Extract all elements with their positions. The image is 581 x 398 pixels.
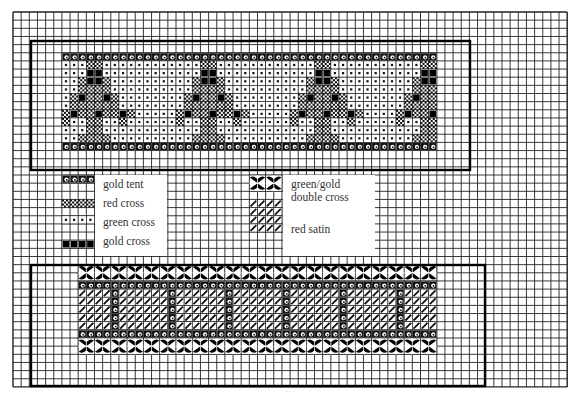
stitch-G <box>266 134 274 142</box>
stitch-G <box>152 94 160 102</box>
stitch-T <box>176 142 184 150</box>
stitch-T <box>160 281 168 289</box>
stitch-T <box>372 330 380 338</box>
stitch-G <box>160 110 168 118</box>
stitch-G <box>396 77 404 85</box>
stitch-T <box>396 330 404 338</box>
stitch-G <box>331 61 339 69</box>
stitch-G <box>380 77 388 85</box>
stitch-R <box>347 118 355 126</box>
stitch-R <box>95 85 103 93</box>
stitch-R <box>306 102 314 110</box>
stitch-G <box>168 77 176 85</box>
stitch-G <box>412 61 420 69</box>
legend-label-s: red satin <box>291 223 330 236</box>
stitch-T <box>70 175 78 183</box>
stitch-G <box>152 134 160 142</box>
stitch-Y <box>323 110 331 118</box>
stitch-T <box>241 142 249 150</box>
stitch-G <box>160 102 168 110</box>
stitch-T <box>249 281 257 289</box>
legend-label-g: green cross <box>103 216 155 229</box>
stitch-T <box>241 53 249 61</box>
stitch-S <box>135 305 143 313</box>
stitch-G <box>143 94 151 102</box>
stitch-T <box>86 142 94 150</box>
stitch-G <box>135 110 143 118</box>
stitch-G <box>339 77 347 85</box>
stitch-Y <box>209 69 217 77</box>
stitch-G <box>119 61 127 69</box>
stitch-S <box>412 322 420 330</box>
stitch-T <box>168 289 176 297</box>
stitch-S <box>363 314 371 322</box>
stitch-S <box>290 297 298 305</box>
stitch-G <box>127 134 135 142</box>
stitch-T <box>135 142 143 150</box>
stitch-G <box>78 126 86 134</box>
stitch-S <box>331 322 339 330</box>
stitch-Y <box>233 110 241 118</box>
stitch-T <box>396 289 404 297</box>
stitch-S <box>323 305 331 313</box>
stitch-G <box>143 110 151 118</box>
stitch-G <box>192 126 200 134</box>
stitch-R <box>315 85 323 93</box>
stitch-G <box>306 126 314 134</box>
stitch-S <box>274 224 282 232</box>
stitch-G <box>70 69 78 77</box>
stitch-T <box>127 330 135 338</box>
stitch-T <box>249 330 257 338</box>
stitch-Y <box>95 69 103 77</box>
stitch-S <box>421 314 429 322</box>
stitch-Y <box>62 240 70 248</box>
stitch-T <box>412 142 420 150</box>
stitch-S <box>412 305 420 313</box>
stitch-S <box>331 289 339 297</box>
stitch-S <box>127 289 135 297</box>
stitch-S <box>315 289 323 297</box>
stitch-G <box>282 69 290 77</box>
stitch-R <box>103 134 111 142</box>
stitch-S <box>160 322 168 330</box>
stitch-S <box>258 208 266 216</box>
stitch-G <box>290 126 298 134</box>
stitch-G <box>412 69 420 77</box>
stitch-T <box>274 142 282 150</box>
stitch-G <box>298 85 306 93</box>
stitch-G <box>388 61 396 69</box>
stitch-Y <box>200 77 208 85</box>
stitch-G <box>241 134 249 142</box>
stitch-T <box>363 281 371 289</box>
stitch-G <box>143 102 151 110</box>
stitch-G <box>339 126 347 134</box>
stitch-S <box>298 305 306 313</box>
stitch-T <box>421 281 429 289</box>
stitch-S <box>347 314 355 322</box>
stitch-G <box>388 94 396 102</box>
stitch-R <box>331 85 339 93</box>
stitch-G <box>62 134 70 142</box>
stitch-Y <box>70 240 78 248</box>
legend-label-d2: double cross <box>291 191 349 204</box>
stitch-G <box>388 110 396 118</box>
stitch-S <box>258 216 266 224</box>
stitch-T <box>331 281 339 289</box>
stitch-R <box>70 199 78 207</box>
stitch-T <box>200 281 208 289</box>
stitch-R <box>429 102 437 110</box>
stitch-G <box>176 85 184 93</box>
caption: · · · <box>0 389 581 395</box>
stitch-T <box>95 53 103 61</box>
stitch-G <box>380 126 388 134</box>
stitch-G <box>127 102 135 110</box>
stitch-R <box>315 102 323 110</box>
stitch-G <box>258 77 266 85</box>
stitch-R <box>209 126 217 134</box>
stitch-T <box>396 53 404 61</box>
stitch-S <box>388 289 396 297</box>
stitch-S <box>306 322 314 330</box>
stitch-G <box>274 69 282 77</box>
stitch-T <box>380 330 388 338</box>
stitch-S <box>323 297 331 305</box>
